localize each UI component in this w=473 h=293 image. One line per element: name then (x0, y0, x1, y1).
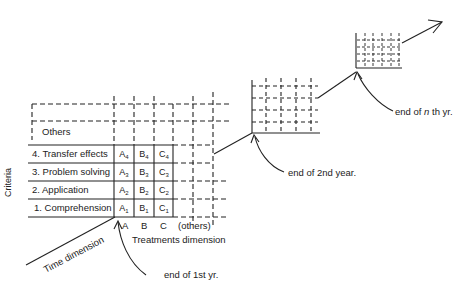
cell-b2: B2 (134, 186, 154, 196)
criteria-axis-label: Criteria (4, 168, 13, 197)
future-arrow-head (428, 20, 442, 33)
row-label-comprehension: 1. Comprehension (34, 203, 112, 213)
row-label-others: Others (42, 127, 71, 137)
pointer-2nd-year (255, 137, 284, 172)
cell-c2: C2 (154, 186, 174, 196)
row-label-problem-solving: 3. Problem solving (32, 167, 110, 177)
column-label-c: C (160, 221, 167, 231)
column-label-a: A (122, 221, 128, 231)
cell-c1: C1 (154, 204, 174, 214)
cell-c3: C3 (154, 168, 174, 178)
future-arrow (402, 22, 442, 43)
cell-b3: B3 (134, 168, 154, 178)
evaluation-cube-diagram: Criteria Others 4. Transfer effects 3. P… (0, 0, 473, 293)
pointer-nth-year (358, 74, 393, 111)
column-label-others: (others) (178, 221, 211, 231)
annotation-end-2nd-year: end of 2nd year. (288, 168, 356, 178)
annotation-end-nth-year: end of n th yr. (395, 107, 453, 117)
treatments-axis-label: Treatments dimension (132, 235, 226, 245)
second-year-grid (252, 78, 320, 133)
cell-a2: A2 (114, 186, 134, 196)
column-label-b: B (141, 221, 147, 231)
cell-a4: A4 (114, 150, 134, 160)
cell-c4: C4 (154, 150, 174, 160)
annotation-end-1st-year: end of 1st yr. (164, 270, 218, 280)
cell-b1: B1 (134, 204, 154, 214)
cell-b4: B4 (134, 150, 154, 160)
cell-a1: A1 (114, 204, 134, 214)
row-label-application: 2. Application (32, 185, 89, 195)
row-label-transfer-effects: 4. Transfer effects (32, 149, 108, 159)
cell-a3: A3 (114, 168, 134, 178)
nth-year-grid (356, 33, 402, 68)
